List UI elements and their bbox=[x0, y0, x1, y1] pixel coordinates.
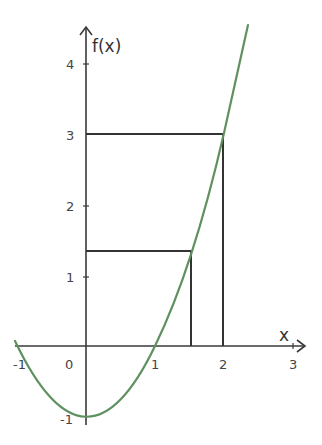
function-plot: f(x) x 4 3 2 1 -1 -1 0 1 2 3 bbox=[0, 0, 322, 445]
x-tick-label-2: 2 bbox=[219, 357, 227, 372]
y-axis bbox=[80, 27, 92, 425]
x-axis-label: x bbox=[279, 325, 289, 345]
y-tick-label-3: 3 bbox=[66, 128, 74, 143]
x-tick-label-1: 1 bbox=[151, 357, 159, 372]
x-tick-label-minus-1: -1 bbox=[13, 357, 26, 372]
y-tick-label-4: 4 bbox=[66, 57, 74, 72]
x-tick-label-3: 3 bbox=[289, 357, 297, 372]
y-tick-label-minus-1: -1 bbox=[60, 412, 73, 427]
function-curve bbox=[15, 25, 248, 417]
x-axis bbox=[15, 340, 305, 352]
y-axis-label: f(x) bbox=[92, 36, 121, 56]
y-tick-label-1: 1 bbox=[66, 270, 74, 285]
guide-lines-x2 bbox=[86, 134, 224, 346]
y-tick-label-2: 2 bbox=[66, 199, 74, 214]
x-tick-label-0: 0 bbox=[65, 357, 73, 372]
